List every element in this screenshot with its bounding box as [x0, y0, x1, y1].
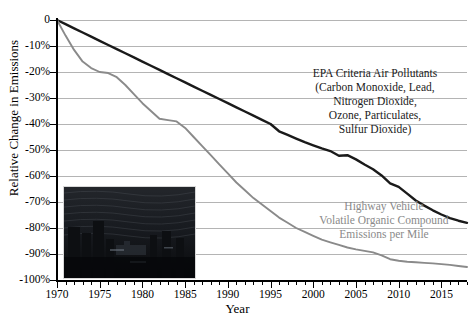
- inset-photo-graphic: [64, 187, 195, 278]
- x-axis-tick-minor: [160, 282, 161, 285]
- y-axis-tick: [50, 124, 57, 125]
- y-axis-tick-label: -100%: [19, 274, 50, 286]
- y-axis-tick: [50, 254, 57, 255]
- y-axis-tick-label: -80%: [25, 222, 50, 234]
- x-axis-title: Year: [0, 301, 475, 317]
- y-axis-tick: [50, 46, 57, 47]
- x-axis-tick-minor: [416, 282, 417, 285]
- x-axis-tick-minor: [125, 282, 126, 285]
- x-axis-tick-label: 2015: [430, 289, 453, 301]
- y-axis-tick: [50, 72, 57, 73]
- y-axis-tick: [50, 176, 57, 177]
- x-axis-tick-minor: [245, 282, 246, 285]
- y-axis-tick-label: -70%: [25, 196, 50, 208]
- x-axis-tick-minor: [450, 282, 451, 285]
- annotation-line: Sulfur Dioxide): [282, 122, 468, 136]
- x-axis-tick-minor: [305, 282, 306, 285]
- annotation-line: Emissions per Mile: [300, 227, 468, 241]
- x-axis-tick-minor: [382, 282, 383, 285]
- x-axis-tick-minor: [177, 282, 178, 285]
- x-axis-tick-label: 1990: [216, 289, 239, 301]
- x-axis-tick-label: 2005: [344, 289, 367, 301]
- x-axis-tick-minor: [467, 282, 468, 285]
- x-axis-tick-minor: [365, 282, 366, 285]
- x-axis-tick-minor: [202, 282, 203, 285]
- x-axis-tick-minor: [288, 282, 289, 285]
- y-axis-tick-label: -10%: [25, 40, 50, 52]
- x-axis-tick-minor: [219, 282, 220, 285]
- x-axis-tick-minor: [83, 282, 84, 285]
- x-axis-tick-minor: [279, 282, 280, 285]
- x-axis-tick-label: 1985: [174, 289, 197, 301]
- x-axis-tick-minor: [91, 282, 92, 285]
- x-axis-tick-minor: [211, 282, 212, 285]
- x-axis-tick-minor: [262, 282, 263, 285]
- x-axis-tick-minor: [74, 282, 75, 285]
- x-axis-tick-minor: [339, 282, 340, 285]
- x-axis-tick-minor: [151, 282, 152, 285]
- x-axis-tick-minor: [253, 282, 254, 285]
- y-axis-tick: [50, 150, 57, 151]
- x-axis-tick-label: 2000: [302, 289, 325, 301]
- y-axis-tick: [50, 228, 57, 229]
- annotation-highway-vehicle-voc: Highway Vehicle Volatile Organic Compoun…: [300, 199, 468, 241]
- smoggy-city-skyline-photo: [63, 186, 196, 279]
- x-axis-tick-minor: [117, 282, 118, 285]
- x-axis-tick-minor: [330, 282, 331, 285]
- annotation-line: Ozone, Particulates,: [282, 108, 468, 122]
- x-axis-tick-minor: [433, 282, 434, 285]
- x-axis-tick-minor: [322, 282, 323, 285]
- y-axis-tick: [50, 202, 57, 203]
- x-axis-tick-minor: [168, 282, 169, 285]
- y-axis-title: Relative Change in Emissions: [6, 18, 22, 218]
- x-axis-tick-minor: [66, 282, 67, 285]
- annotation-line: Highway Vehicle: [300, 199, 468, 213]
- x-axis-tick-label: 1970: [46, 289, 69, 301]
- x-axis-tick-label: 1995: [259, 289, 282, 301]
- y-axis-tick-label: -40%: [25, 118, 50, 130]
- y-axis-tick-label: -60%: [25, 170, 50, 182]
- annotation-line: Volatile Organic Compound: [300, 213, 468, 227]
- y-axis-tick: [50, 98, 57, 99]
- x-axis-tick-minor: [108, 282, 109, 285]
- annotation-line: (Carbon Monoxide, Lead,: [282, 80, 468, 94]
- x-axis-tick-minor: [458, 282, 459, 285]
- x-axis-tick-minor: [296, 282, 297, 285]
- x-axis-tick-minor: [347, 282, 348, 285]
- y-axis-tick: [50, 20, 57, 21]
- annotation-line: Nitrogen Dioxide,: [282, 94, 468, 108]
- y-axis-tick-label: -90%: [25, 248, 50, 260]
- x-axis-tick-label: 2010: [387, 289, 410, 301]
- y-axis-tick-label: -30%: [25, 92, 50, 104]
- y-axis-tick-label: -50%: [25, 144, 50, 156]
- x-axis-tick-label: 1975: [88, 289, 111, 301]
- x-axis-tick-label: 1980: [131, 289, 154, 301]
- y-axis-tick: [50, 280, 57, 281]
- x-axis-tick-minor: [390, 282, 391, 285]
- emissions-line-chart: 0-10%-20%-30%-40%-50%-60%-70%-80%-90%-10…: [0, 0, 475, 317]
- y-axis-tick-label: -20%: [25, 66, 50, 78]
- annotation-epa-criteria-pollutants: EPA Criteria Air Pollutants (Carbon Mono…: [282, 66, 468, 136]
- x-axis-tick-minor: [194, 282, 195, 285]
- x-axis-tick-minor: [134, 282, 135, 285]
- x-axis-tick-minor: [424, 282, 425, 285]
- x-axis-tick-minor: [373, 282, 374, 285]
- annotation-line: EPA Criteria Air Pollutants: [282, 66, 468, 80]
- x-axis-tick-minor: [407, 282, 408, 285]
- x-axis-tick-minor: [236, 282, 237, 285]
